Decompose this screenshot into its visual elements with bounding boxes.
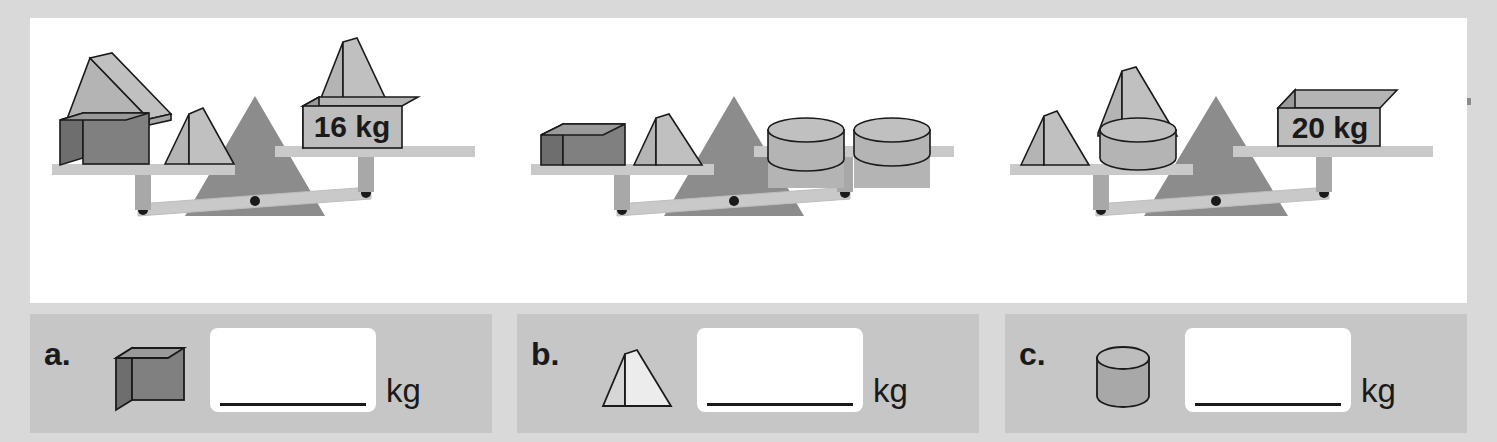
right-cylinder-b-2 xyxy=(854,118,930,188)
worksheet-root: 16 kg xyxy=(0,0,1497,442)
answer-input-c[interactable] xyxy=(1185,328,1351,412)
balance-scale-2 xyxy=(509,18,988,303)
left-post-1 xyxy=(135,170,151,210)
answer-write-line-a xyxy=(220,403,366,406)
weight-box-3: 20 kg xyxy=(1278,90,1397,146)
balance-scale-1: 16 kg xyxy=(30,18,509,303)
answer-unit-b: kg xyxy=(873,374,908,407)
cylinder-icon xyxy=(1085,338,1171,418)
answer-box-b: b. kg xyxy=(517,314,979,433)
left-cylinder-3 xyxy=(1100,118,1176,170)
answer-unit-a: kg xyxy=(386,374,421,407)
right-pan-3 xyxy=(1233,146,1433,157)
weight-label-3: 20 kg xyxy=(1292,111,1369,144)
answer-box-c: c. kg xyxy=(1005,314,1467,433)
answer-input-b[interactable] xyxy=(697,328,863,412)
answer-box-a: a. kg xyxy=(30,314,492,433)
answer-write-line-c xyxy=(1195,403,1341,406)
right-cylinder-a-2 xyxy=(768,118,844,188)
scan-artifact-speck xyxy=(1467,98,1471,105)
left-cube-1 xyxy=(60,113,149,165)
answers-row: a. kg b. kg xyxy=(30,314,1467,433)
left-post-2 xyxy=(614,170,630,210)
balance-scale-3: 20 kg xyxy=(988,18,1467,303)
answer-label-b: b. xyxy=(531,336,559,373)
left-post-3 xyxy=(1093,170,1109,210)
answer-write-line-b xyxy=(707,403,853,406)
balance-scales-panel: 16 kg xyxy=(30,18,1467,303)
right-post-1 xyxy=(358,152,374,192)
left-prism-1 xyxy=(165,108,234,164)
weight-label-1: 16 kg xyxy=(314,110,391,143)
left-cube-2 xyxy=(541,124,625,165)
triangular-prism-icon xyxy=(597,338,683,418)
left-prism-2 xyxy=(634,114,702,165)
answer-label-a: a. xyxy=(44,336,71,373)
answer-label-c: c. xyxy=(1019,336,1046,373)
weight-box-1: 16 kg xyxy=(303,97,418,148)
answer-input-a[interactable] xyxy=(210,328,376,412)
left-pan-1 xyxy=(52,164,235,175)
answer-unit-c: kg xyxy=(1361,374,1396,407)
left-prism-3 xyxy=(1021,111,1089,165)
right-post-3 xyxy=(1316,152,1332,192)
cube-icon xyxy=(110,338,196,418)
